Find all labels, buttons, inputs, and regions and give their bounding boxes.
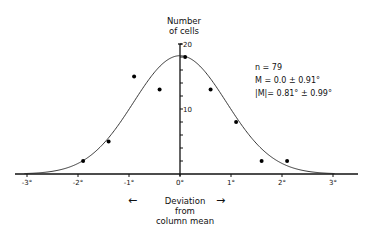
stat-abs-mean: |M|= 0.81° ± 0.99° (255, 87, 332, 100)
svg-text:3°: 3° (329, 179, 337, 187)
stat-mean: M = 0.0 ± 0.91° (255, 74, 332, 87)
x-axis-title: Deviation from column mean (130, 196, 240, 226)
data-point (132, 75, 136, 79)
x-axis-title-line3: column mean (130, 216, 240, 226)
statistics-annotation: n = 79 M = 0.0 ± 0.91° |M|= 0.81° ± 0.99… (255, 61, 332, 100)
svg-text:1°: 1° (227, 179, 235, 187)
data-point (107, 140, 111, 144)
data-point (209, 88, 213, 92)
svg-text:0°: 0° (176, 179, 184, 187)
y-axis-title-line1: Number (160, 16, 208, 26)
svg-text:2°: 2° (278, 179, 286, 187)
data-point (81, 159, 85, 163)
data-point (158, 88, 162, 92)
data-point (234, 120, 238, 124)
data-point (260, 159, 264, 163)
x-axis-title-line1: Deviation (130, 196, 240, 206)
data-point (285, 159, 289, 163)
y-axis-title-line2: of cells (160, 26, 208, 36)
svg-text:-2°: -2° (73, 179, 83, 187)
x-axis-title-line2: from (130, 206, 240, 216)
svg-text:-1°: -1° (124, 179, 134, 187)
data-point (183, 55, 187, 59)
stat-n: n = 79 (255, 61, 332, 74)
svg-text:10: 10 (183, 106, 192, 114)
svg-text:20: 20 (183, 41, 192, 49)
y-axis-title: Number of cells (160, 16, 208, 36)
svg-text:-3°: -3° (22, 179, 32, 187)
